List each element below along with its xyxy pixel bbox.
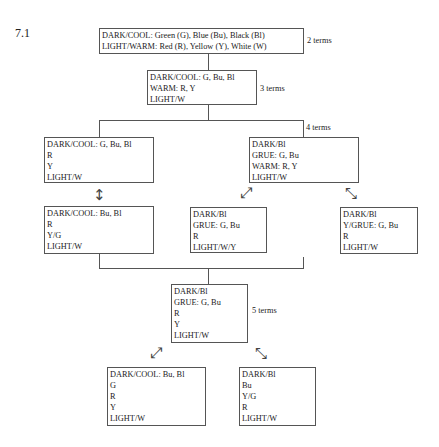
connector-line — [99, 254, 100, 269]
box-line: LIGHT/W — [47, 241, 151, 252]
connector-line — [303, 120, 304, 137]
double-arrow-diagonal-ne-icon: ⤢ — [240, 186, 252, 201]
connector-line — [208, 268, 209, 284]
box-line: GRUE: G, Bu — [174, 297, 245, 308]
box-line: WARM: R, Y — [252, 161, 356, 172]
box-line: DARK/Bl — [242, 369, 313, 380]
box-line: Bu — [242, 380, 313, 391]
box-line: R — [47, 150, 151, 161]
box-line: R — [110, 391, 203, 402]
box-line: Y — [110, 402, 203, 413]
box-line: Y/G — [242, 391, 313, 402]
figure-label: 7.1 — [15, 26, 30, 41]
box-variant-b: DARK/Bl GRUE: G, Bu R LIGHT/W/Y — [190, 207, 267, 253]
box-variant-c: DARK/Bl Y/GRUE: G, Bu R LIGHT/W — [340, 207, 418, 254]
box-four-terms-left: DARK/COOL: G, Bu, Bl R Y LIGHT/W — [44, 137, 154, 183]
box-line: DARK/Bl — [343, 209, 415, 220]
box-line: LIGHT/W — [47, 172, 151, 183]
box-line: LIGHT/W — [343, 242, 415, 253]
box-line: DARK/Bl — [193, 209, 264, 220]
box-line: WARM: R, Y — [150, 83, 254, 94]
box-line: G — [110, 380, 203, 391]
box-line: DARK/COOL: Green (G), Blue (Bu), Black (… — [102, 30, 301, 41]
connector-line — [99, 268, 304, 269]
box-line: LIGHT/W — [174, 330, 245, 341]
box-variant-a: DARK/COOL: Bu, Bl R Y/G LIGHT/W — [44, 206, 154, 254]
box-line: Y — [174, 319, 245, 330]
box-line: LIGHT/W/Y — [193, 242, 264, 253]
box-line: Y — [47, 161, 151, 172]
double-arrow-diagonal-nw-icon: ⤡ — [345, 186, 357, 201]
box-line: LIGHT/W — [110, 413, 203, 424]
terms-label-2: 2 terms — [307, 36, 332, 45]
box-line: R — [343, 231, 415, 242]
terms-label-4: 4 terms — [306, 123, 331, 132]
connector-line — [99, 120, 304, 121]
box-two-terms: DARK/COOL: Green (G), Blue (Bu), Black (… — [99, 28, 304, 54]
box-line: LIGHT/W — [150, 94, 254, 105]
box-line: Y/G — [47, 230, 151, 241]
box-line: Y/GRUE: G, Bu — [343, 220, 415, 231]
box-line: DARK/COOL: G, Bu, Bl — [47, 139, 151, 150]
box-line: R — [193, 231, 264, 242]
box-line: DARK/COOL: Bu, Bl — [47, 208, 151, 219]
connector-line — [208, 54, 209, 70]
box-line: DARK/COOL: Bu, Bl — [110, 369, 203, 380]
box-four-terms-right: DARK/Bl GRUE: G, Bu WARM: R, Y LIGHT/W — [249, 137, 359, 183]
box-variant-d: DARK/COOL: Bu, Bl G R Y LIGHT/W — [107, 367, 206, 426]
box-line: DARK/COOL: G, Bu, Bl — [150, 72, 254, 83]
box-line: LIGHT/W — [242, 413, 313, 424]
box-line: DARK/Bl — [252, 139, 356, 150]
double-arrow-diagonal-nw-icon: ⤡ — [255, 346, 267, 361]
box-line: LIGHT/W — [252, 172, 356, 183]
terms-label-3: 3 terms — [260, 84, 285, 93]
box-five-terms: DARK/Bl GRUE: G, Bu R Y LIGHT/W — [171, 284, 248, 343]
terms-label-5: 5 terms — [252, 306, 277, 315]
box-line: GRUE: G, Bu — [252, 150, 356, 161]
connector-line — [208, 105, 209, 120]
double-arrow-vertical-icon: ↕ — [93, 188, 106, 203]
box-line: R — [174, 308, 245, 319]
double-arrow-diagonal-ne-icon: ⤢ — [150, 346, 162, 361]
box-line: DARK/Bl — [174, 286, 245, 297]
box-three-terms: DARK/COOL: G, Bu, Bl WARM: R, Y LIGHT/W — [147, 70, 257, 105]
box-line: GRUE: G, Bu — [193, 220, 264, 231]
box-line: LIGHT/WARM: Red (R), Yellow (Y), White (… — [102, 41, 301, 52]
box-variant-e: DARK/Bl Bu Y/G R LIGHT/W — [239, 367, 316, 426]
box-line: R — [242, 402, 313, 413]
box-line: R — [47, 219, 151, 230]
connector-line — [99, 120, 100, 137]
